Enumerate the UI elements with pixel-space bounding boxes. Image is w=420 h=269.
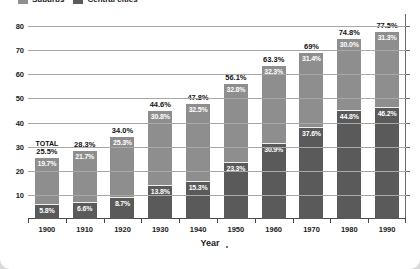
bar-segment-label-suburbs: 31.4% bbox=[302, 53, 321, 62]
bar-segment-suburbs[interactable]: 32.3% bbox=[262, 66, 286, 144]
x-axis-cell: 1900 bbox=[28, 219, 66, 237]
bar-segment-central-cities[interactable]: 13.8% bbox=[148, 186, 172, 219]
x-axis-tick-mark bbox=[255, 219, 256, 223]
stacked-bar[interactable]: 32.3%30.9% bbox=[262, 66, 286, 219]
y-axis-tick-mark bbox=[406, 98, 410, 99]
bar-group: 25.5%TOTAL19.7%5.8%28.3%21.7%6.6%34.0%25… bbox=[28, 14, 406, 219]
x-axis-tick-mark bbox=[330, 219, 331, 223]
stacked-bar[interactable]: 32.8%23.3% bbox=[224, 84, 248, 219]
y-axis-tick-mark bbox=[406, 50, 410, 51]
y-axis-tick-label: 30 bbox=[2, 143, 24, 152]
bar-total-label: 47.8% bbox=[187, 93, 208, 102]
x-axis-cell: 1930 bbox=[141, 219, 179, 237]
gridline bbox=[28, 171, 406, 172]
bar-segment-label-suburbs: 32.8% bbox=[226, 84, 245, 93]
x-axis-cell: 1940 bbox=[179, 219, 217, 237]
bar-segment-label-suburbs: 25.3% bbox=[113, 137, 132, 146]
stacked-bar[interactable]: 32.5%15.3% bbox=[186, 104, 210, 219]
bar-segment-label-central-cities: 30.9% bbox=[264, 144, 283, 153]
gridline bbox=[28, 123, 406, 124]
stacked-bar[interactable]: 30.0%44.8% bbox=[337, 39, 361, 219]
bar-segment-label-central-cities: 13.8% bbox=[151, 186, 170, 195]
stacked-bar[interactable]: 19.7%5.8% bbox=[35, 158, 59, 220]
bar-total-label: 74.8% bbox=[339, 28, 360, 37]
bar-column[interactable]: 74.8%30.0%44.8% bbox=[330, 14, 368, 219]
y-axis-tick-mark bbox=[406, 195, 410, 196]
bar-total-label: 44.6% bbox=[150, 100, 171, 109]
bar-segment-central-cities[interactable]: 37.6% bbox=[299, 128, 323, 219]
stacked-bar[interactable]: 30.8%13.8% bbox=[148, 111, 172, 219]
bar-segment-label-central-cities: 44.8% bbox=[340, 111, 359, 120]
y-axis-tick-mark bbox=[406, 74, 410, 75]
stacked-bar[interactable]: 21.7%6.6% bbox=[73, 151, 97, 219]
bar-segment-label-central-cities: 8.7% bbox=[115, 198, 130, 207]
bar-column[interactable]: 69%31.4%37.6% bbox=[293, 14, 331, 219]
x-axis-tick-label: 1970 bbox=[303, 219, 320, 234]
bar-segment-label-central-cities: 46.2% bbox=[378, 108, 397, 117]
bar-total-label: 34.0% bbox=[112, 126, 133, 135]
x-axis-tick-mark bbox=[66, 219, 67, 223]
chart-legend: Suburbs Central cities bbox=[18, 0, 138, 6]
gridline bbox=[28, 26, 406, 27]
y-axis-tick-label: 70 bbox=[2, 46, 24, 55]
bar-total-label: 63.3% bbox=[263, 55, 284, 64]
bar-segment-central-cities[interactable]: 6.6% bbox=[73, 203, 97, 219]
y-axis-tick-mark bbox=[406, 171, 410, 172]
bar-column[interactable]: 63.3%32.3%30.9% bbox=[255, 14, 293, 219]
x-axis-tick-mark bbox=[28, 219, 29, 223]
x-axis-title: Year bbox=[0, 238, 420, 248]
y-axis-tick-label: 10 bbox=[2, 191, 24, 200]
x-axis-tick-mark bbox=[405, 219, 406, 223]
x-axis-tick-label: 1940 bbox=[190, 219, 207, 234]
bar-segment-label-suburbs: 31.3% bbox=[378, 32, 397, 41]
x-axis-cell: 1960 bbox=[255, 219, 293, 237]
bar-segment-suburbs[interactable]: 31.3% bbox=[375, 32, 399, 107]
x-axis-tick-label: 1960 bbox=[265, 219, 282, 234]
bar-column[interactable]: 28.3%21.7%6.6% bbox=[66, 14, 104, 219]
bar-column[interactable]: 47.8%32.5%15.3% bbox=[179, 14, 217, 219]
x-axis-cell: 1980 bbox=[330, 219, 368, 237]
y-axis-tick-label: 20 bbox=[2, 167, 24, 176]
legend-swatch-suburbs bbox=[18, 0, 28, 4]
x-axis-tick-mark bbox=[368, 219, 369, 223]
bar-segment-central-cities[interactable]: 8.7% bbox=[110, 198, 134, 219]
x-axis-tick-label: 1920 bbox=[114, 219, 131, 234]
bar-segment-suburbs[interactable]: 31.4% bbox=[299, 53, 323, 129]
x-axis-tick-mark bbox=[141, 219, 142, 223]
x-axis-tick-mark bbox=[104, 219, 105, 223]
bar-segment-suburbs[interactable]: 19.7% bbox=[35, 158, 59, 206]
stacked-bar[interactable]: 25.3%8.7% bbox=[110, 137, 134, 219]
gridline bbox=[28, 98, 406, 99]
bar-column[interactable]: 25.5%TOTAL19.7%5.8% bbox=[28, 14, 66, 219]
bar-segment-central-cities[interactable]: 44.8% bbox=[337, 111, 361, 219]
x-axis-tick-label: 1980 bbox=[341, 219, 358, 234]
chart-card: Suburbs Central cities 25.5%TOTAL19.7%5.… bbox=[0, 0, 420, 269]
bar-segment-label-central-cities: 37.6% bbox=[302, 128, 321, 137]
bar-segment-label-central-cities: 15.3% bbox=[189, 182, 208, 191]
bar-segment-central-cities[interactable]: 15.3% bbox=[186, 182, 210, 219]
bar-column[interactable]: 34.0%25.3%8.7% bbox=[104, 14, 142, 219]
x-axis-tick-mark bbox=[217, 219, 218, 223]
x-axis-cell: 1910 bbox=[66, 219, 104, 237]
legend-item-suburbs[interactable]: Suburbs bbox=[18, 0, 64, 5]
bar-column[interactable]: 44.6%30.8%13.8% bbox=[141, 14, 179, 219]
bar-segment-central-cities[interactable]: 5.8% bbox=[35, 205, 59, 219]
bar-segment-central-cities[interactable]: 46.2% bbox=[375, 108, 399, 219]
bar-segment-central-cities[interactable]: 30.9% bbox=[262, 144, 286, 219]
bar-column[interactable]: 77.5%31.3%46.2% bbox=[368, 14, 406, 219]
bar-segment-label-suburbs: 30.0% bbox=[340, 39, 359, 48]
y-axis-tick-label: 60 bbox=[2, 70, 24, 79]
bar-segment-label-central-cities: 5.8% bbox=[39, 205, 54, 214]
gridline bbox=[28, 195, 406, 196]
legend-label-suburbs: Suburbs bbox=[32, 0, 64, 5]
x-axis-tick-label: 1990 bbox=[379, 219, 396, 234]
x-axis-tick-label: 1910 bbox=[76, 219, 93, 234]
x-axis-cell: 1920 bbox=[104, 219, 142, 237]
bar-segment-label-suburbs: 30.8% bbox=[151, 111, 170, 120]
x-axis-tick-label: 1930 bbox=[152, 219, 169, 234]
legend-item-central-cities[interactable]: Central cities bbox=[73, 0, 137, 5]
y-axis-tick-mark bbox=[406, 147, 410, 148]
bar-column[interactable]: 56.1%32.8%23.3% bbox=[217, 14, 255, 219]
y-axis-tick-mark bbox=[406, 26, 410, 27]
stacked-bar[interactable]: 31.3%46.2% bbox=[375, 32, 399, 219]
